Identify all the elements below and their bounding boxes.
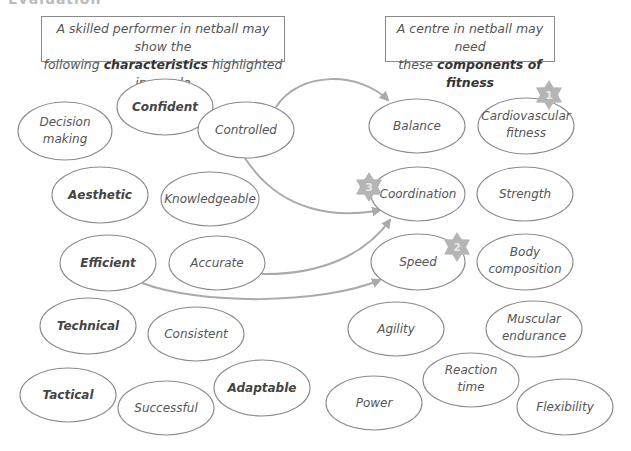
svg-text:Controlled: Controlled <box>215 123 277 137</box>
svg-text:Cardiovascular: Cardiovascular <box>481 109 572 123</box>
arrow-efficient-to-speed <box>142 280 380 299</box>
svg-text:Speed: Speed <box>399 255 437 269</box>
svg-text:3: 3 <box>365 181 373 194</box>
component-balance: Balance <box>369 99 465 153</box>
svg-text:Adaptable: Adaptable <box>227 381 297 395</box>
arrow-accurate-to-coordination <box>262 220 390 274</box>
characteristic-efficient: Efficient <box>60 235 156 291</box>
svg-text:time: time <box>457 380 484 394</box>
svg-text:Consistent: Consistent <box>164 327 229 341</box>
component-coordination: Coordination <box>371 167 465 221</box>
svg-text:fitness: fitness <box>506 126 546 140</box>
svg-text:Knowledgeable: Knowledgeable <box>164 192 256 206</box>
characteristic-adaptable: Adaptable <box>214 360 310 416</box>
component-flexibility: Flexibility <box>517 379 613 435</box>
svg-text:2: 2 <box>453 241 461 254</box>
component-agility: Agility <box>348 302 444 356</box>
characteristic-decision-making: Decision making <box>18 102 112 160</box>
svg-text:Accurate: Accurate <box>189 256 243 270</box>
svg-text:Body: Body <box>510 245 541 259</box>
svg-text:Flexibility: Flexibility <box>536 400 594 414</box>
characteristic-controlled: Controlled <box>198 102 294 158</box>
svg-text:composition: composition <box>488 262 561 276</box>
svg-text:endurance: endurance <box>502 329 566 343</box>
component-reaction-time: Reaction time <box>423 353 519 407</box>
characteristic-accurate: Accurate <box>169 236 265 290</box>
svg-text:Technical: Technical <box>57 319 120 333</box>
svg-text:Strength: Strength <box>499 187 551 201</box>
characteristic-successful: Successful <box>118 381 214 435</box>
svg-text:1: 1 <box>545 89 553 102</box>
svg-text:Muscular: Muscular <box>507 312 562 326</box>
component-strength: Strength <box>477 167 573 221</box>
arrow-controlled-to-balance <box>276 79 388 107</box>
svg-text:Coordination: Coordination <box>380 187 457 201</box>
svg-text:Confident: Confident <box>132 100 199 114</box>
svg-text:Balance: Balance <box>393 119 441 133</box>
svg-text:Reaction: Reaction <box>445 363 498 377</box>
diagram-canvas: Decision making Confident Controlled Aes… <box>0 0 631 451</box>
component-muscular-endurance: Muscular endurance <box>486 301 582 357</box>
svg-text:making: making <box>43 132 88 146</box>
component-power: Power <box>326 376 422 430</box>
svg-text:Efficient: Efficient <box>80 256 137 270</box>
characteristic-knowledgeable: Knowledgeable <box>161 172 259 226</box>
characteristic-tactical: Tactical <box>20 368 116 422</box>
svg-text:Aesthetic: Aesthetic <box>67 188 132 202</box>
svg-text:Decision: Decision <box>39 115 90 129</box>
svg-text:Tactical: Tactical <box>42 388 94 402</box>
svg-text:Agility: Agility <box>376 322 416 336</box>
component-cardiovascular-fitness: Cardiovascular fitness <box>478 98 574 154</box>
svg-text:Successful: Successful <box>134 401 198 415</box>
characteristic-consistent: Consistent <box>148 307 244 361</box>
svg-text:Power: Power <box>356 396 394 410</box>
characteristic-technical: Technical <box>40 298 136 354</box>
component-body-composition: Body composition <box>477 234 573 290</box>
characteristic-aesthetic: Aesthetic <box>52 167 148 223</box>
